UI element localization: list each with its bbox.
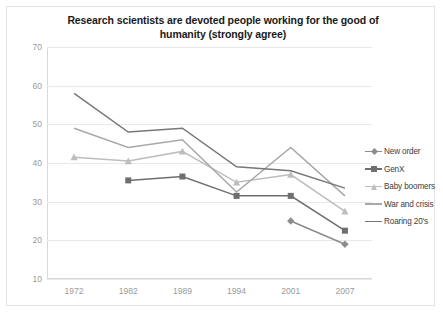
legend-item[interactable]: New order xyxy=(365,143,443,161)
y-axis-tick-label: 60 xyxy=(33,81,42,91)
data-point-marker xyxy=(179,174,185,180)
data-point-marker xyxy=(342,228,348,234)
legend-item-label: Roaring 20's xyxy=(384,217,428,226)
legend-swatch-icon xyxy=(365,182,382,192)
y-axis-tick-label: 10 xyxy=(33,274,42,284)
x-axis-tick-label: 1989 xyxy=(173,286,192,296)
legend-swatch-icon xyxy=(365,217,382,227)
y-axis-tick-label: 30 xyxy=(33,197,42,207)
legend-swatch-icon xyxy=(365,164,382,174)
y-axis-tick-label: 40 xyxy=(33,158,42,168)
legend-item[interactable]: War and crisis xyxy=(365,196,443,214)
gridline xyxy=(47,279,372,280)
y-axis-tick-label: 20 xyxy=(33,235,42,245)
data-point-marker xyxy=(234,193,240,199)
chart-title: Research scientists are devoted people w… xyxy=(39,13,407,41)
legend-item[interactable]: Roaring 20's xyxy=(365,213,443,231)
data-point-marker xyxy=(125,177,131,183)
legend-item-label: GenX xyxy=(384,165,404,174)
legend-item-label: Baby boomers xyxy=(384,182,435,191)
legend-item-label: War and crisis xyxy=(384,200,433,209)
chart-title-line-1: Research scientists are devoted people w… xyxy=(39,13,407,27)
y-axis-tick-label: 70 xyxy=(33,42,42,52)
series-line xyxy=(74,93,345,188)
x-axis-tick-label: 2001 xyxy=(281,286,300,296)
series-line xyxy=(291,221,345,244)
legend-swatch-icon xyxy=(365,199,382,209)
data-point-marker xyxy=(341,241,348,248)
x-axis-tick-label: 1982 xyxy=(119,286,138,296)
legend-item[interactable]: GenX xyxy=(365,161,443,179)
plot-wrapper: 70605040302010 197219821989199420012007 xyxy=(47,47,372,279)
chart-legend: New orderGenXBaby boomersWar and crisisR… xyxy=(365,143,443,231)
x-axis-tick-label: 2007 xyxy=(335,286,354,296)
data-point-marker xyxy=(287,217,294,224)
legend-item-label: New order xyxy=(384,147,420,156)
legend-item[interactable]: Baby boomers xyxy=(365,178,443,196)
x-axis-tick-label: 1972 xyxy=(65,286,84,296)
chart-title-line-2: humanity (strongly agree) xyxy=(39,27,407,41)
chart-card: Research scientists are devoted people w… xyxy=(6,6,435,306)
y-axis-tick-label: 50 xyxy=(33,119,42,129)
x-axis-tick-label: 1994 xyxy=(227,286,246,296)
legend-swatch-icon xyxy=(365,147,382,157)
data-point-marker xyxy=(288,193,294,199)
series-lines xyxy=(47,47,372,279)
